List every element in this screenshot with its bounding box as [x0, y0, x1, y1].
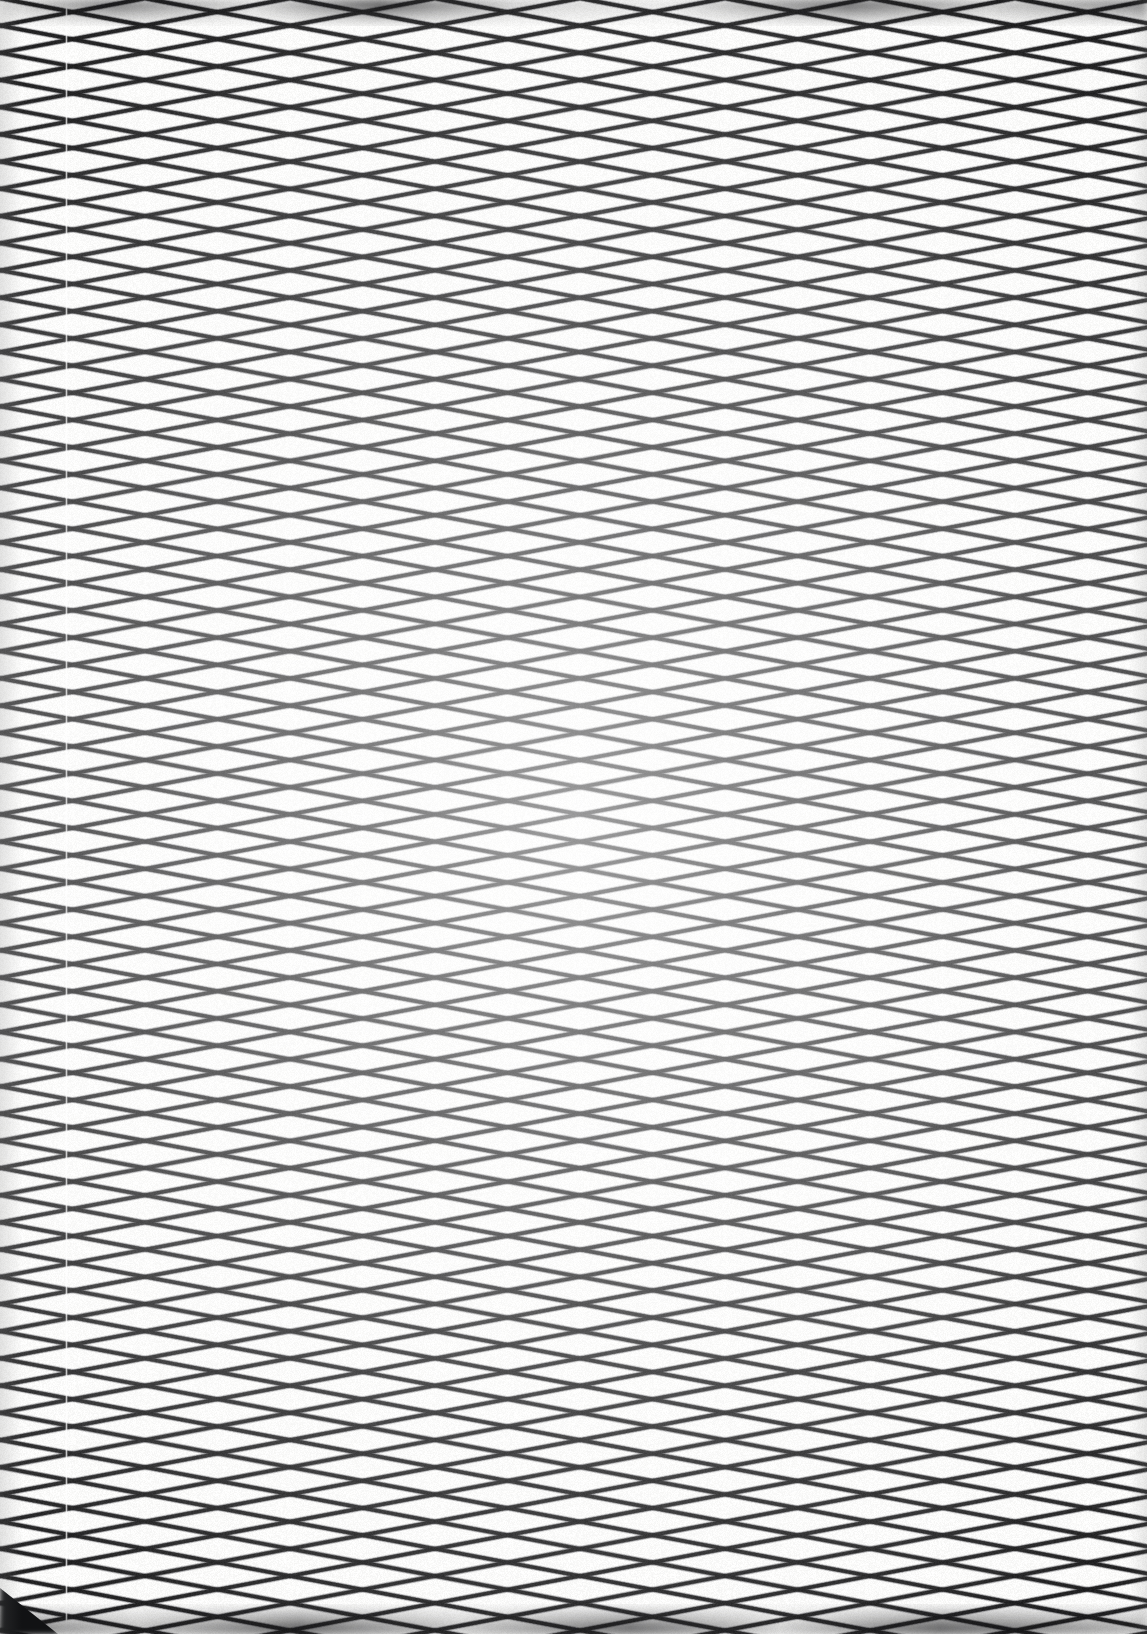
image-canvas: expanded-metal diamond mesh close-up Dia… — [0, 0, 1147, 1634]
mesh-lattice-layer — [0, 0, 1147, 1634]
